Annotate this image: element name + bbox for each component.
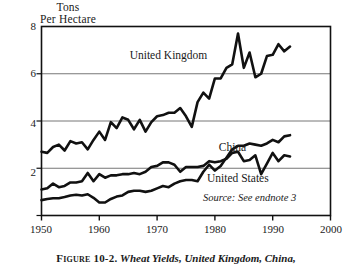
- y-axis-title-line1: Tons: [8, 2, 128, 14]
- x-tick-label-1950: 1950: [11, 224, 71, 235]
- figure-wheat-yields: Tons Per Hectare 8 6 4 2 1950 1960 1970 …: [0, 0, 352, 273]
- y-tick-label-4: 4: [0, 118, 36, 129]
- x-tick-label-1970: 1970: [127, 224, 187, 235]
- x-tick-label-1980: 1980: [185, 224, 245, 235]
- source-note: Source: See endnote 3: [203, 193, 296, 204]
- figure-caption-text: Wheat Yields, United Kingdom, China,: [120, 252, 296, 264]
- series-label-united-kingdom: United Kingdom: [130, 50, 208, 62]
- gridlines: [42, 74, 331, 169]
- x-tick-label-1960: 1960: [69, 224, 129, 235]
- figure-number: Figure 10-2.: [56, 252, 117, 264]
- series-label-china: China: [219, 142, 246, 154]
- x-tick-label-1990: 1990: [243, 224, 303, 235]
- series-label-united-states: United States: [207, 173, 269, 185]
- figure-caption: Figure 10-2. Wheat Yields, United Kingdo…: [0, 252, 352, 265]
- x-tick-label-2000: 2000: [301, 224, 352, 235]
- y-tick-label-8: 8: [0, 21, 36, 32]
- y-tick-label-6: 6: [0, 68, 36, 79]
- y-tick-label-2: 2: [0, 167, 36, 178]
